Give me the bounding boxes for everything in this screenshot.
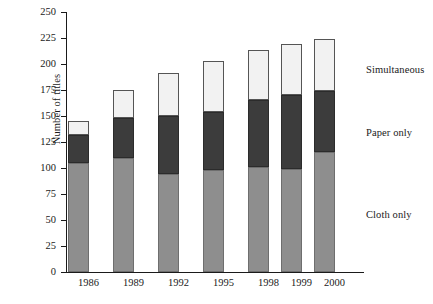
bar-segment-simultaneous (158, 73, 179, 116)
y-tick-label: 25 (16, 240, 56, 251)
bar-segment-paper-only (113, 118, 134, 158)
legend-label-simultaneous: Simultaneous (366, 64, 424, 76)
bar-1989 (113, 0, 134, 304)
bar-segment-paper-only (248, 100, 269, 167)
y-axis-title: Number of titles (50, 54, 64, 164)
bar-1992 (158, 0, 179, 304)
y-tick-label: 175 (16, 84, 56, 95)
y-tick-mark (61, 246, 67, 247)
x-tick-label-1992: 1992 (156, 276, 202, 289)
y-tick-mark (61, 38, 67, 39)
bar-segment-cloth-only (203, 170, 224, 272)
y-tick-label: 100 (16, 162, 56, 173)
y-tick-label: 75 (16, 188, 56, 199)
bar-1999 (281, 0, 302, 304)
y-tick-mark (61, 142, 67, 143)
bar-segment-paper-only (203, 112, 224, 170)
bar-segment-paper-only (158, 116, 179, 174)
y-tick-label: 200 (16, 58, 56, 69)
bar-segment-cloth-only (113, 158, 134, 272)
bar-segment-cloth-only (281, 169, 302, 272)
x-tick-label-1989: 1989 (111, 276, 157, 289)
y-tick-label: 125 (16, 136, 56, 147)
y-tick-mark (61, 64, 67, 65)
y-tick-label: 225 (16, 32, 56, 43)
y-tick-label: 250 (16, 6, 56, 17)
bar-segment-cloth-only (68, 163, 89, 272)
stacked-bar-chart: Number of titles 02550751001251501752002… (0, 0, 433, 304)
legend-label-paper-only: Paper only (366, 127, 412, 139)
bar-segment-paper-only (281, 95, 302, 169)
bar-1995 (203, 0, 224, 304)
y-tick-mark (61, 12, 67, 13)
bar-segment-simultaneous (314, 39, 335, 91)
bar-segment-simultaneous (281, 44, 302, 95)
bar-segment-simultaneous (248, 50, 269, 100)
bar-segment-cloth-only (314, 152, 335, 272)
x-tick-label-1986: 1986 (66, 276, 112, 289)
y-tick-mark (61, 194, 67, 195)
y-tick-label: 150 (16, 110, 56, 121)
y-tick-mark (61, 90, 67, 91)
bar-segment-simultaneous (68, 121, 89, 135)
bar-segment-simultaneous (203, 61, 224, 112)
bar-segment-simultaneous (113, 90, 134, 118)
y-tick-label: 0 (16, 266, 56, 277)
x-tick-label-1995: 1995 (201, 276, 247, 289)
bar-segment-paper-only (68, 135, 89, 163)
bar-1998 (248, 0, 269, 304)
y-tick-mark (61, 220, 67, 221)
y-tick-mark (61, 272, 67, 273)
y-tick-label: 50 (16, 214, 56, 225)
legend-label-cloth-only: Cloth only (366, 209, 412, 221)
bar-segment-cloth-only (248, 167, 269, 272)
bar-segment-cloth-only (158, 174, 179, 272)
bar-segment-paper-only (314, 91, 335, 152)
y-tick-mark (61, 116, 67, 117)
x-tick-label-2000: 2000 (312, 276, 358, 289)
bar-1986 (68, 0, 89, 304)
y-tick-mark (61, 168, 67, 169)
bar-2000 (314, 0, 335, 304)
